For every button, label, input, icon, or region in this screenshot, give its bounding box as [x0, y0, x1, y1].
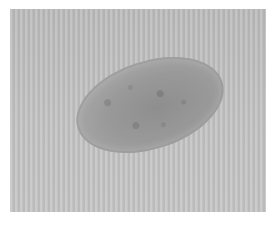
egg — [64, 40, 236, 171]
micrograph-frame — [10, 9, 266, 212]
